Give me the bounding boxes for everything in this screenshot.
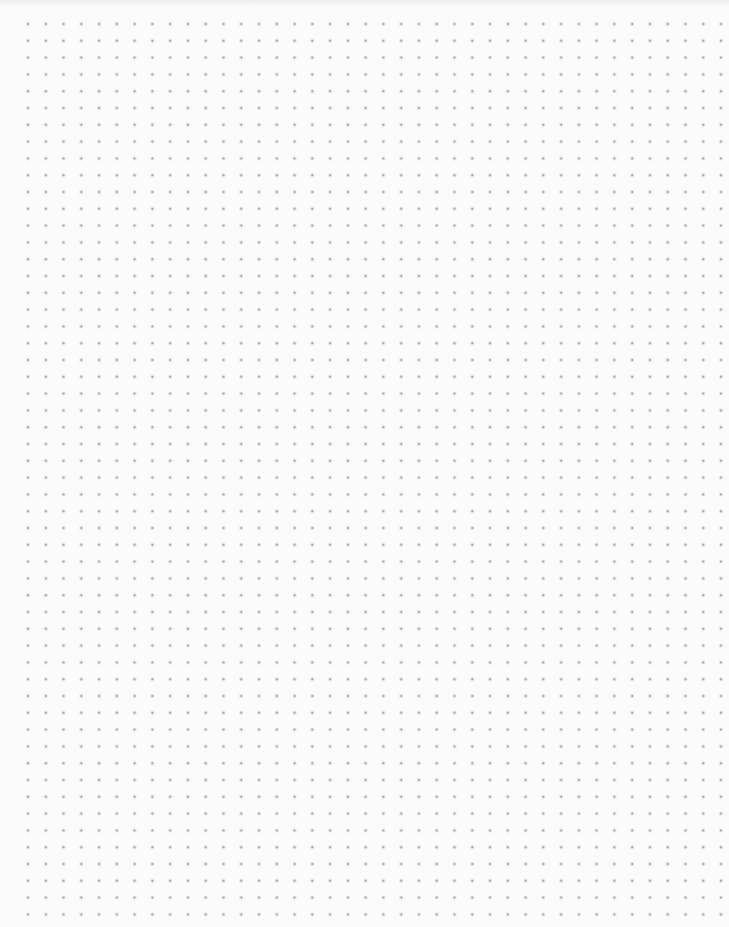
grid-dot xyxy=(240,477,242,479)
grid-dot xyxy=(613,443,615,445)
grid-dot xyxy=(329,745,331,747)
grid-dot xyxy=(578,510,580,512)
grid-dot xyxy=(702,90,704,92)
grid-dot xyxy=(365,544,367,546)
grid-dot xyxy=(667,292,669,294)
grid-dot xyxy=(116,712,118,714)
grid-dot xyxy=(205,695,207,697)
grid-dot xyxy=(489,141,491,143)
grid-dot xyxy=(489,880,491,882)
grid-dot xyxy=(631,645,633,647)
grid-dot xyxy=(240,393,242,395)
grid-dot xyxy=(525,493,527,495)
grid-dot xyxy=(720,174,722,176)
grid-dot xyxy=(507,897,509,899)
grid-dot xyxy=(436,863,438,865)
grid-dot xyxy=(382,813,384,815)
grid-dot xyxy=(507,477,509,479)
grid-dot xyxy=(169,225,171,227)
grid-dot xyxy=(667,645,669,647)
grid-dot xyxy=(347,913,349,915)
grid-dot xyxy=(187,695,189,697)
grid-dot xyxy=(365,208,367,210)
grid-dot xyxy=(720,258,722,260)
grid-dot xyxy=(45,73,47,75)
grid-dot xyxy=(311,258,313,260)
grid-dot xyxy=(294,174,296,176)
grid-dot xyxy=(205,426,207,428)
grid-dot xyxy=(240,594,242,596)
grid-dot xyxy=(382,544,384,546)
grid-dot xyxy=(471,460,473,462)
grid-dot xyxy=(63,729,65,731)
grid-dot xyxy=(116,594,118,596)
grid-dot xyxy=(365,241,367,243)
grid-dot xyxy=(116,477,118,479)
grid-dot xyxy=(311,645,313,647)
grid-dot xyxy=(365,393,367,395)
grid-dot xyxy=(205,191,207,193)
grid-dot xyxy=(258,846,260,848)
grid-dot xyxy=(347,863,349,865)
grid-dot xyxy=(205,258,207,260)
grid-dot xyxy=(151,561,153,563)
grid-dot xyxy=(507,107,509,109)
grid-dot xyxy=(702,880,704,882)
grid-dot xyxy=(525,292,527,294)
grid-dot xyxy=(720,829,722,831)
grid-dot xyxy=(525,393,527,395)
grid-dot xyxy=(631,359,633,361)
grid-dot xyxy=(223,426,225,428)
grid-dot xyxy=(365,577,367,579)
grid-dot xyxy=(507,745,509,747)
grid-dot xyxy=(720,241,722,243)
grid-dot xyxy=(720,863,722,865)
grid-dot xyxy=(436,23,438,25)
grid-dot xyxy=(98,745,100,747)
grid-dot xyxy=(525,745,527,747)
grid-dot xyxy=(347,779,349,781)
grid-dot xyxy=(667,460,669,462)
grid-dot xyxy=(329,897,331,899)
grid-dot xyxy=(454,779,456,781)
grid-dot xyxy=(45,393,47,395)
grid-dot xyxy=(329,393,331,395)
grid-dot xyxy=(169,191,171,193)
grid-dot xyxy=(507,813,509,815)
grid-dot xyxy=(720,309,722,311)
grid-dot xyxy=(667,527,669,529)
grid-dot xyxy=(365,561,367,563)
grid-dot xyxy=(596,577,598,579)
grid-dot xyxy=(631,594,633,596)
grid-dot xyxy=(560,90,562,92)
grid-dot xyxy=(418,863,420,865)
grid-dot xyxy=(489,661,491,663)
grid-dot xyxy=(63,829,65,831)
grid-dot xyxy=(311,628,313,630)
grid-dot xyxy=(134,342,136,344)
grid-dot xyxy=(685,157,687,159)
grid-dot xyxy=(294,561,296,563)
grid-dot xyxy=(365,157,367,159)
grid-dot xyxy=(720,695,722,697)
grid-dot xyxy=(27,594,29,596)
grid-dot xyxy=(400,359,402,361)
grid-dot xyxy=(45,863,47,865)
grid-dot xyxy=(240,561,242,563)
grid-dot xyxy=(613,829,615,831)
grid-dot xyxy=(80,577,82,579)
grid-dot xyxy=(542,661,544,663)
grid-dot xyxy=(578,23,580,25)
grid-dot xyxy=(258,829,260,831)
grid-dot xyxy=(720,913,722,915)
grid-dot xyxy=(365,779,367,781)
grid-dot xyxy=(240,863,242,865)
grid-dot xyxy=(294,544,296,546)
grid-dot xyxy=(382,594,384,596)
grid-dot xyxy=(560,846,562,848)
grid-dot xyxy=(702,40,704,42)
grid-dot xyxy=(27,191,29,193)
grid-dot xyxy=(80,544,82,546)
grid-dot xyxy=(667,510,669,512)
grid-dot xyxy=(418,73,420,75)
